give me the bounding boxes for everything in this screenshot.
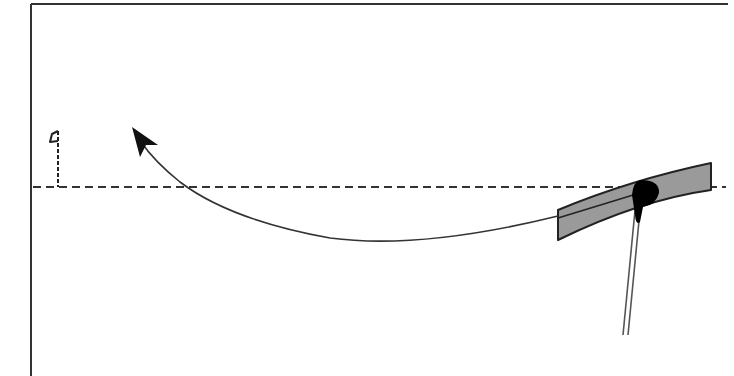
curved-ball-path — [141, 142, 558, 241]
putting-diagram — [0, 0, 734, 376]
arrowhead-icon — [132, 127, 158, 157]
hole-flag-icon — [50, 131, 58, 187]
